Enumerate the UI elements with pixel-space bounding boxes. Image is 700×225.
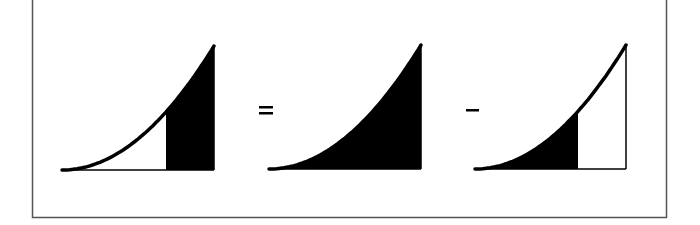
shaded-area bbox=[269, 45, 421, 169]
shaded-area bbox=[475, 111, 578, 169]
panel-strip-area bbox=[62, 46, 214, 170]
shaded-area bbox=[166, 46, 214, 170]
diagram-canvas bbox=[0, 0, 700, 225]
equals-sign bbox=[259, 112, 273, 115]
panel-left-area bbox=[475, 45, 626, 169]
frame-line bbox=[33, 0, 667, 218]
minus-sign bbox=[466, 109, 479, 112]
panel-full-area bbox=[269, 45, 421, 169]
equals-sign bbox=[259, 106, 273, 109]
frame-border bbox=[33, 0, 667, 218]
